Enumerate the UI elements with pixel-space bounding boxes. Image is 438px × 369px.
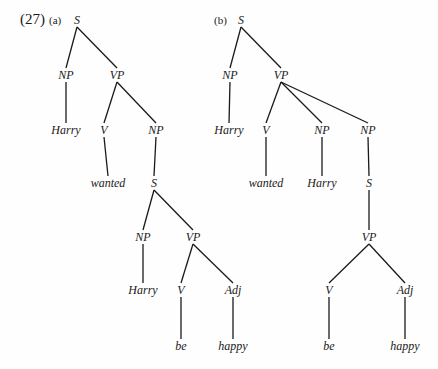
tree-edge [66,27,77,68]
tree-node-harry: Harry [307,177,336,189]
tree-node-v: V [325,284,332,296]
tree-edge [369,244,405,283]
tree-node-np: NP [135,231,150,243]
tree-edges [0,0,438,369]
tree-node-vp: VP [110,69,125,81]
tree-node-v: V [262,124,269,136]
tree-edge [241,27,281,68]
tree-node-be: be [323,340,334,352]
tree-node-vp: VP [274,69,289,81]
tree-edge [117,82,156,123]
tree-edge [281,82,322,123]
tree-node-s: S [74,14,80,26]
tree-node-happy: happy [218,340,247,352]
tree-node-wanted: wanted [249,177,284,189]
tree-node-vp: VP [186,231,201,243]
tree-node-harry: Harry [51,124,80,136]
tree-edge [230,27,241,68]
tree-node-np: NP [222,69,237,81]
tree-edge [104,137,108,176]
tree-node-v: V [177,284,184,296]
tree-edge [368,137,369,176]
tree-edge [77,27,117,68]
tree-node-np: NP [148,124,163,136]
tree-node-s: S [366,177,372,189]
tree-edge [104,82,117,123]
tree-node-v: V [100,124,107,136]
tree-node-np: NP [58,69,73,81]
tree-node-adj: Adj [225,284,242,296]
tree-edge [266,82,281,123]
tree-edge [154,137,156,176]
tree-node-harry: Harry [214,124,243,136]
tree-edge [229,82,230,123]
tree-node-adj: Adj [397,284,414,296]
tree-node-s: S [238,14,244,26]
tree-node-happy: happy [390,340,419,352]
tree-edge [281,82,368,123]
tree-node-wanted: wanted [91,177,126,189]
tree-edge [143,190,154,230]
tree-edge [193,244,233,283]
tree-edge [181,244,193,283]
tree-node-harry: Harry [128,284,157,296]
tree-node-np: NP [360,124,375,136]
tree-edge [154,190,193,230]
tree-node-s: S [151,177,157,189]
tree-node-vp: VP [362,231,377,243]
tree-node-be: be [175,340,186,352]
tree-node-np: NP [314,124,329,136]
tree-edge [329,244,369,283]
